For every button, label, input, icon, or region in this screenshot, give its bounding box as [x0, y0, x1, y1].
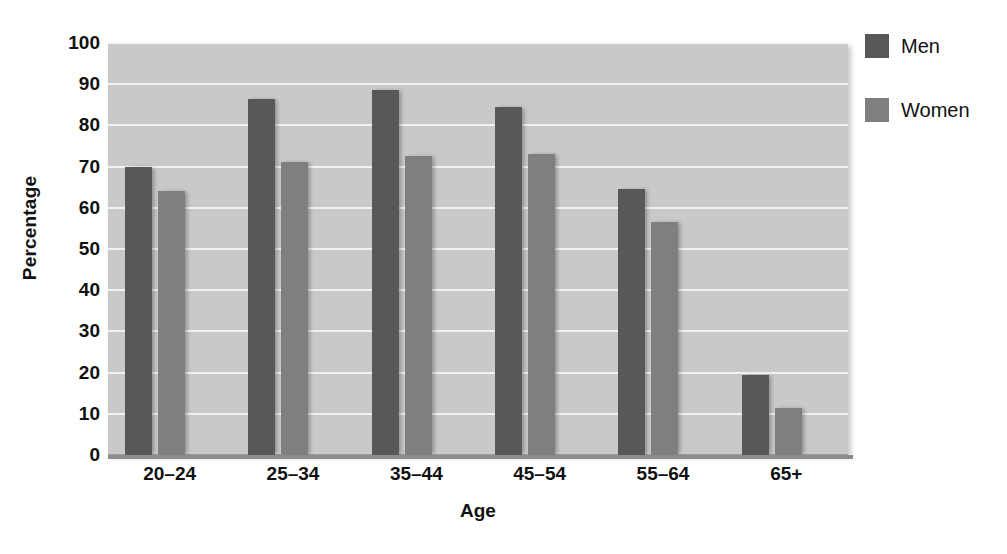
y-tick-label: 70	[79, 156, 100, 178]
legend-item: Men	[865, 34, 1000, 58]
y-tick-label: 80	[79, 114, 100, 136]
legend-item: Women	[865, 98, 1000, 122]
y-tick-label: 90	[79, 73, 100, 95]
bar-group	[231, 43, 354, 455]
bar-groups	[108, 43, 848, 455]
chart-legend: MenWomen	[865, 34, 1000, 162]
x-axis-tick-labels: 20–2425–3435–4445–5455–6465+	[108, 463, 848, 497]
x-tick-label: 55–64	[637, 463, 690, 485]
bar-men	[248, 99, 275, 455]
bar-women	[405, 156, 432, 455]
y-axis-title-text: Percentage	[19, 175, 41, 279]
bar-women	[775, 408, 802, 455]
bar-men	[618, 189, 645, 455]
x-tick-label: 45–54	[513, 463, 566, 485]
y-tick-label: 20	[79, 362, 100, 384]
legend-swatch-men	[865, 34, 889, 58]
y-axis-title: Percentage	[6, 0, 54, 455]
x-tick-label: 65+	[770, 463, 802, 485]
bar-group	[725, 43, 848, 455]
y-tick-label: 0	[89, 444, 100, 466]
y-tick-label: 30	[79, 320, 100, 342]
bar-men	[495, 107, 522, 455]
plot-area	[108, 43, 848, 455]
bar-women	[158, 191, 185, 455]
bar-men	[125, 167, 152, 455]
legend-label: Women	[901, 99, 970, 122]
y-tick-label: 60	[79, 197, 100, 219]
y-tick-label: 50	[79, 238, 100, 260]
bar-group	[478, 43, 601, 455]
legend-label: Men	[901, 35, 940, 58]
x-axis-title: Age	[108, 500, 848, 522]
legend-swatch-women	[865, 98, 889, 122]
bar-women	[651, 222, 678, 455]
bar-group	[108, 43, 231, 455]
bar-chart: Percentage 0102030405060708090100 20–242…	[0, 0, 1007, 554]
x-tick-label: 35–44	[390, 463, 443, 485]
x-tick-label: 20–24	[143, 463, 196, 485]
bar-group	[601, 43, 724, 455]
bar-men	[372, 90, 399, 455]
bar-women	[281, 162, 308, 455]
y-tick-label: 100	[68, 32, 100, 54]
x-axis-line	[108, 455, 853, 459]
bar-group	[355, 43, 478, 455]
y-tick-label: 10	[79, 403, 100, 425]
y-tick-label: 40	[79, 279, 100, 301]
x-tick-label: 25–34	[267, 463, 320, 485]
bar-women	[528, 154, 555, 455]
bar-men	[742, 375, 769, 455]
y-axis-tick-labels: 0102030405060708090100	[52, 0, 104, 520]
